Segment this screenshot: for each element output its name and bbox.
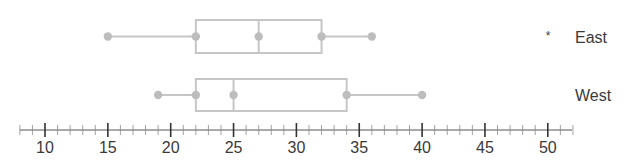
tick-label: 35	[350, 139, 368, 156]
box-plot-west	[154, 79, 426, 111]
tick-label: 30	[288, 139, 306, 156]
boxes-group	[104, 20, 427, 111]
series-labels: East*West	[546, 29, 612, 105]
q1-point	[192, 32, 200, 40]
max-point	[368, 32, 376, 40]
q3-point	[342, 91, 350, 99]
series-label-east: East	[575, 29, 608, 46]
tick-labels: 101520253035404550	[36, 139, 557, 156]
box-plot-east	[104, 20, 376, 53]
tick-label: 25	[225, 139, 243, 156]
median-point	[254, 32, 262, 40]
series-label-west: West	[575, 87, 612, 104]
box-plot-chart: 101520253035404550 East*West	[0, 0, 635, 168]
q3-point	[317, 32, 325, 40]
q1-point	[192, 91, 200, 99]
min-point	[154, 91, 162, 99]
x-axis: 101520253035404550	[20, 123, 573, 156]
min-point	[104, 32, 112, 40]
asterisk-marker: *	[546, 29, 551, 43]
max-point	[418, 91, 426, 99]
tick-label: 10	[36, 139, 54, 156]
tick-label: 45	[476, 139, 494, 156]
tick-label: 15	[99, 139, 117, 156]
median-point	[229, 91, 237, 99]
tick-label: 40	[413, 139, 431, 156]
tick-label: 50	[539, 139, 557, 156]
iqr-box	[196, 79, 347, 111]
tick-label: 20	[162, 139, 180, 156]
